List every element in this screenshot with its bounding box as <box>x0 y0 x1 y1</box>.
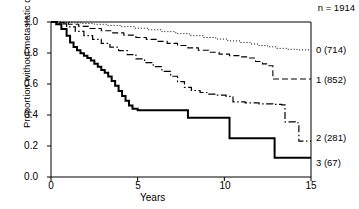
series-curve-3 <box>51 22 311 158</box>
series-curve-1 <box>51 22 311 79</box>
survival-chart: n = 1914 Proportion without metastatic d… <box>0 0 359 209</box>
plot-area <box>0 0 359 209</box>
series-curve-2 <box>51 22 311 141</box>
